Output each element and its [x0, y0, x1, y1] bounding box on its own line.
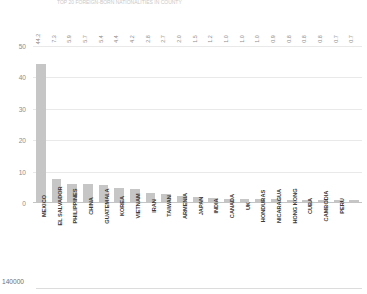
- category-label: INDIA: [213, 198, 219, 213]
- category-label-cell: ARMENIA: [174, 206, 190, 268]
- value-label-cell: 5.4: [96, 5, 112, 39]
- y-tick-10: 10: [19, 168, 26, 175]
- category-label-cell: [346, 206, 362, 268]
- value-label: 5.4: [98, 35, 104, 43]
- value-label-cell: 0.9: [268, 5, 284, 39]
- bar: [36, 64, 46, 202]
- category-label: CANADA: [229, 194, 235, 218]
- value-label-cell: 5.9: [64, 5, 80, 39]
- value-label-cell: 0.8: [299, 5, 315, 39]
- value-label: 2.7: [160, 35, 166, 43]
- value-label: 0.8: [286, 35, 292, 43]
- bar-cell: [174, 46, 190, 202]
- value-label: 2.8: [145, 35, 151, 43]
- category-label: NICARAGUA: [276, 189, 282, 223]
- category-label-cell: HONDURAS: [252, 206, 268, 268]
- value-label: 7.3: [51, 35, 57, 43]
- category-label-cell: CUBA: [299, 206, 315, 268]
- bar-cell: [80, 46, 96, 202]
- value-label: 0.7: [348, 35, 354, 43]
- bar-cell: [268, 46, 284, 202]
- bar-cell: [158, 46, 174, 202]
- category-label-cell: INDIA: [205, 206, 221, 268]
- category-label-cell: CHINA: [80, 206, 96, 268]
- category-label-cell: CANADA: [221, 206, 237, 268]
- next-chart-y-tick: 140000: [2, 278, 24, 285]
- category-label-cell: PERU: [331, 206, 347, 268]
- value-label-cell: 0.7: [331, 5, 347, 39]
- value-label: 1.0: [223, 35, 229, 43]
- bar-cell: [111, 46, 127, 202]
- y-tick-50: 50: [19, 43, 26, 50]
- bar-cell: [331, 46, 347, 202]
- category-label-cell: NICARAGUA: [268, 206, 284, 268]
- category-label-cell: MEXICO: [33, 206, 49, 268]
- category-label-cell: HONG KONG: [284, 206, 300, 268]
- category-label: HONG KONG: [292, 188, 298, 223]
- category-label: CAMBODIA: [323, 191, 329, 222]
- category-label: UK: [245, 202, 251, 210]
- category-label: PERU: [339, 198, 345, 214]
- bar-series: [33, 46, 362, 202]
- value-label-cell: 2.8: [143, 5, 159, 39]
- next-chart-partial: 140000: [0, 272, 367, 294]
- category-label-row: MEXICOEL SALVADORPHILIPPINESCHINAGUATEMA…: [33, 206, 362, 268]
- category-label-cell: EL SALVADOR: [49, 206, 65, 268]
- category-label-cell: TAIWAN: [158, 206, 174, 268]
- category-label: VIETNAM: [135, 193, 141, 218]
- value-label-cell: 1.5: [190, 5, 206, 39]
- value-label: 1.0: [239, 35, 245, 43]
- category-label: IRAN: [151, 199, 157, 213]
- category-label: ARMENIA: [182, 193, 188, 219]
- category-label: GUATEMALA: [104, 188, 110, 223]
- value-label: 5.7: [82, 35, 88, 43]
- category-label-cell: UK: [237, 206, 253, 268]
- value-label: 0.8: [301, 35, 307, 43]
- value-label-cell: 2.0: [174, 5, 190, 39]
- value-label: 4.2: [129, 35, 135, 43]
- value-label-cell: 1.0: [252, 5, 268, 39]
- bar-cell: [315, 46, 331, 202]
- bar-chart-foreign-born-nationalities: 44.27.35.95.75.44.44.22.82.72.01.51.21.0…: [0, 0, 367, 270]
- category-label: HONDURAS: [260, 190, 266, 222]
- bar-cell: [143, 46, 159, 202]
- value-label: 0.7: [333, 35, 339, 43]
- value-label-cell: 5.7: [80, 5, 96, 39]
- category-label: CHINA: [88, 197, 94, 215]
- bar-cell: [190, 46, 206, 202]
- value-label-cell: 44.2: [33, 5, 49, 39]
- value-label-cell: 1.0: [237, 5, 253, 39]
- y-axis-tick-labels: 01020304050: [0, 46, 30, 204]
- value-label: 5.9: [66, 35, 72, 43]
- value-label-row: 44.27.35.95.75.44.44.22.82.72.01.51.21.0…: [33, 5, 362, 39]
- bar-cell: [346, 46, 362, 202]
- category-label: KOREA: [119, 196, 125, 216]
- bar-cell: [237, 46, 253, 202]
- y-tick-20: 20: [19, 137, 26, 144]
- value-label: 0.9: [270, 35, 276, 43]
- value-label: 1.2: [207, 35, 213, 43]
- category-label: EL SALVADOR: [57, 186, 63, 225]
- category-label: PHILIPPINES: [72, 189, 78, 224]
- category-label: MEXICO: [41, 195, 47, 217]
- value-label-cell: 7.3: [49, 5, 65, 39]
- y-tick-40: 40: [19, 74, 26, 81]
- value-label-cell: 2.7: [158, 5, 174, 39]
- category-label-cell: CAMBODIA: [315, 206, 331, 268]
- value-label-cell: 1.0: [221, 5, 237, 39]
- category-label-cell: VIETNAM: [127, 206, 143, 268]
- value-label: 4.4: [113, 35, 119, 43]
- category-label: JAPAN: [198, 197, 204, 216]
- bar-cell: [299, 46, 315, 202]
- value-label: 1.0: [254, 35, 260, 43]
- bar-cell: [33, 46, 49, 202]
- value-label-cell: 0.8: [284, 5, 300, 39]
- plot-area: [33, 46, 362, 203]
- bar-cell: [49, 46, 65, 202]
- value-label: 0.8: [317, 35, 323, 43]
- y-tick-0: 0: [22, 200, 26, 207]
- value-label-cell: 4.4: [111, 5, 127, 39]
- category-label-cell: GUATEMALA: [96, 206, 112, 268]
- bar-cell: [221, 46, 237, 202]
- bar-cell: [284, 46, 300, 202]
